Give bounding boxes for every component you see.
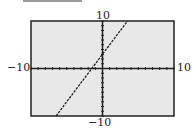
y-min-label: −10 — [88, 117, 111, 128]
x-max-label: 10 — [177, 62, 191, 73]
x-min-label: −10 — [7, 62, 30, 73]
y-max-label: 10 — [96, 10, 110, 21]
